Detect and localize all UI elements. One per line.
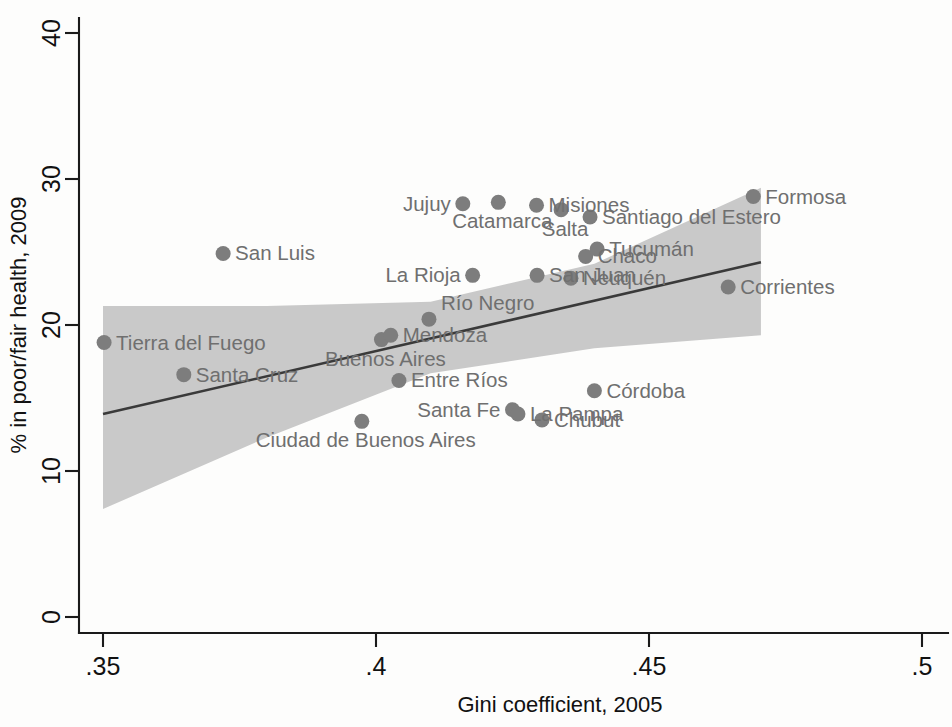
data-point-label: Buenos Aires	[325, 347, 446, 370]
data-point-label: Jujuy	[403, 192, 452, 215]
x-tick-label: .35	[86, 652, 121, 680]
scatter-plot-svg: 010203040 .35.4.45.5 Tierra del FuegoSan…	[0, 0, 952, 727]
x-tick-label: .45	[632, 652, 667, 680]
data-point-label: Salta	[542, 217, 589, 240]
data-point-label: San Luis	[235, 241, 315, 264]
y-tick-label: 10	[37, 457, 65, 485]
data-point-label: La Rioja	[385, 263, 461, 286]
data-point-label: Río Negro	[441, 291, 534, 314]
data-point-label: Corrientes	[740, 275, 835, 298]
data-point-label: Ciudad de Buenos Aires	[256, 428, 476, 451]
data-point-label: Mendoza	[403, 323, 488, 346]
data-point-marker	[721, 280, 736, 295]
data-point-marker	[746, 189, 761, 204]
data-point-marker	[216, 246, 231, 261]
data-point-label: Catamarca	[452, 209, 553, 232]
x-tick-label: .4	[366, 652, 387, 680]
data-point-marker	[391, 373, 406, 388]
data-point-label: Tucumán	[609, 237, 694, 260]
x-axis-ticks: .35.4.45.5	[86, 633, 933, 680]
x-axis-title: Gini coefficient, 2005	[457, 692, 662, 717]
data-point-label: Tierra del Fuego	[116, 331, 266, 354]
y-tick-label: 0	[37, 610, 65, 624]
data-point-marker	[491, 195, 506, 210]
data-point-label: Neuquén	[583, 266, 666, 289]
y-tick-label: 40	[37, 19, 65, 47]
data-point-marker	[465, 268, 480, 283]
data-point-marker	[383, 328, 398, 343]
y-tick-label: 20	[37, 311, 65, 339]
data-point-label: Santa Fe	[417, 398, 500, 421]
data-point-label: Santa Cruz	[196, 363, 299, 386]
data-point-marker	[510, 407, 525, 422]
data-point-label: Formosa	[765, 185, 846, 208]
y-tick-label: 30	[37, 165, 65, 193]
y-axis-ticks: 010203040	[37, 19, 79, 624]
data-point-label: Chubut	[554, 408, 620, 431]
data-point-marker	[176, 367, 191, 382]
data-point-label: Santiago del Estero	[602, 205, 781, 228]
data-point-marker	[97, 335, 112, 350]
chart-figure: 010203040 .35.4.45.5 Tierra del FuegoSan…	[0, 0, 952, 727]
x-tick-label: .5	[912, 652, 933, 680]
y-axis-title: % in poor/fair health, 2009	[6, 197, 31, 454]
data-point-marker	[530, 268, 545, 283]
data-point-marker	[354, 414, 369, 429]
data-point-label: Entre Ríos	[411, 368, 508, 391]
data-point-marker	[587, 383, 602, 398]
data-point-label: Córdoba	[606, 379, 685, 402]
